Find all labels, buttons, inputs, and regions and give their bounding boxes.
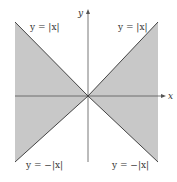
y-axis-arrow-icon xyxy=(86,9,90,14)
shaded-region-left xyxy=(15,22,88,162)
label-bottom-right: y = −|x| xyxy=(111,160,149,171)
y-axis-label: y xyxy=(77,8,84,18)
x-axis-label: x xyxy=(168,91,173,101)
label-top-right: y = |x| xyxy=(117,22,148,33)
region-diagram: x y y = |x| y = |x| y = −|x| y = −|x| xyxy=(0,0,177,182)
label-top-left: y = |x| xyxy=(29,22,60,33)
x-axis-arrow-icon xyxy=(161,94,166,98)
shaded-region-right xyxy=(88,22,158,162)
label-bottom-left: y = −|x| xyxy=(25,160,63,171)
